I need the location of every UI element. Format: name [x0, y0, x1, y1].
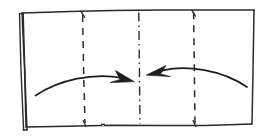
fold-diagram-container: Origami fold step diagram Hand-drawn rec…: [0, 0, 267, 137]
canvas-background: [0, 0, 267, 137]
fold-diagram: Origami fold step diagram Hand-drawn rec…: [0, 0, 267, 137]
